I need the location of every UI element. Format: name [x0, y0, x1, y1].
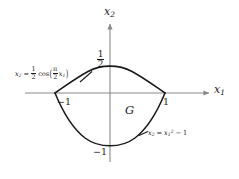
eq-lower-equals: = [157, 129, 163, 137]
region-label-G: G [125, 105, 134, 117]
eq-lower-constant: 1 [183, 129, 187, 137]
eq-upper-lhs-sub: 2 [19, 73, 22, 78]
y-axis-label: x2 [104, 6, 115, 19]
eq-upper-argument-fraction: π2 [53, 66, 58, 80]
eq-upper-arg-den: 2 [53, 74, 58, 81]
eq-upper-close-paren: ) [66, 69, 69, 79]
eq-upper-coeff-den: 2 [31, 74, 36, 81]
y-axis-label-sub: 2 [110, 10, 115, 19]
eq-lower-rhs-sup: 2 [171, 129, 174, 134]
y-tick-label-negative-one: −1 [93, 147, 107, 157]
x-axis-label: x1 [214, 84, 225, 97]
fraction-denominator: 2 [97, 60, 104, 69]
eq-upper-coefficient: 12 [31, 66, 36, 80]
eq-upper-equals: = [24, 70, 30, 78]
x-tick-label-negative-one: −1 [57, 97, 71, 107]
x-tick-label-positive-one: 1 [163, 97, 169, 107]
one-half-fraction: 12 [97, 50, 104, 69]
eq-upper-function: cos [38, 70, 49, 78]
equation-upper-boundary: x2=12cos(π2x1) [15, 66, 69, 80]
y-tick-label-one-half: 12 [97, 50, 104, 69]
eq-lower-minus: − [176, 129, 182, 137]
x-axis-label-sub: 1 [220, 88, 225, 97]
equation-lower-boundary: x2=x12−1 [148, 130, 187, 138]
eq-lower-lhs-sub: 2 [152, 132, 155, 137]
plot-canvas [0, 0, 239, 179]
eq-upper-open-paren: ( [50, 69, 53, 79]
math-figure: x1 x2 −1 1 12 −1 G x2=12cos(π2x1) x2=x12… [0, 0, 239, 179]
